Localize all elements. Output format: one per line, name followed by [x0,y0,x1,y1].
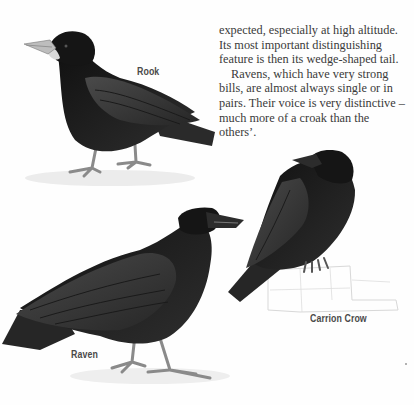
raven-illustration [2,207,244,384]
body-text-line: others’. [219,125,414,140]
body-text-line: pairs. Their voice is very distinctive – [219,96,414,111]
page-speck [405,363,407,365]
book-page: expected, especially at high altitude. I… [0,0,414,405]
body-text-line: expected, especially at high altitude. [219,23,414,38]
body-text-line: feature is then its wedge-shaped tail. [219,52,414,67]
rook-illustration [24,31,215,186]
body-text-line: bills, are almost always single or in [219,81,414,96]
carrion-crow-label: Carrion Crow [310,313,367,324]
raven-label: Raven [71,349,98,360]
carrion-crow-illustration [228,150,398,312]
body-text-line: Ravens, which have very strong [219,67,414,82]
body-text-line: Its most important distinguishing [219,38,414,53]
body-text: expected, especially at high altitude. I… [219,23,414,140]
body-text-line: much more of a croak than the [219,111,414,126]
rook-label: Rook [137,66,159,77]
